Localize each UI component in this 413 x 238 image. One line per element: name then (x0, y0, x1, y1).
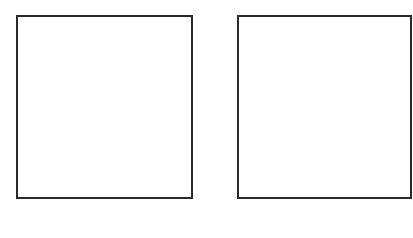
left-square-box (16, 15, 193, 199)
right-square-box (237, 15, 412, 199)
